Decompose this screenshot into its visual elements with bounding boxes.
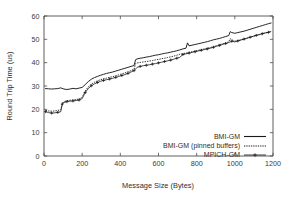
x-tick-label: 1000 xyxy=(227,159,243,168)
chart-background xyxy=(0,0,286,202)
chart-figure: 0102030405060020040060080010001200 BMI-G… xyxy=(0,0,286,202)
x-tick-label: 400 xyxy=(114,159,126,168)
y-axis-label: Round Trip Time (us) xyxy=(5,51,14,120)
x-tick-label: 600 xyxy=(153,159,165,168)
y-tick-label: 30 xyxy=(32,82,40,91)
legend-label-1: BMI-GM xyxy=(214,133,240,140)
y-tick-label: 40 xyxy=(32,58,40,67)
y-tick-label: 10 xyxy=(32,128,40,137)
x-tick-label: 800 xyxy=(191,159,203,168)
x-tick-label: 1200 xyxy=(265,159,281,168)
x-tick-label: 200 xyxy=(76,159,88,168)
y-tick-label: 60 xyxy=(32,12,40,21)
line-chart: 0102030405060020040060080010001200 BMI-G… xyxy=(0,0,286,202)
legend-label-2: BMI-GM (pinned buffers) xyxy=(163,142,240,150)
y-tick-label: 0 xyxy=(36,152,40,161)
x-axis-label: Message Size (Bytes) xyxy=(122,181,194,190)
x-tick-label: 0 xyxy=(42,159,46,168)
y-tick-label: 20 xyxy=(32,105,40,114)
y-tick-label: 50 xyxy=(32,35,40,44)
legend-label-3: MPICH-GM xyxy=(204,151,240,158)
